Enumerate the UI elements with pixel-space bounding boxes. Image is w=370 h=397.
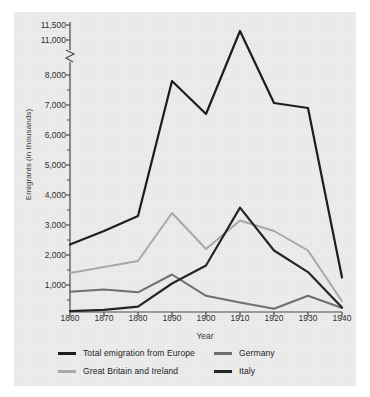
legend-swatch-line bbox=[58, 352, 76, 355]
legend-item[interactable]: Great Britain and Ireland bbox=[58, 366, 214, 376]
legend-label: Italy bbox=[239, 366, 255, 376]
legend-label: Germany bbox=[239, 348, 275, 358]
legend-item[interactable]: Germany bbox=[214, 348, 344, 358]
chart-screenshot: Emigrants (in thousands) 11,500 11,000 8… bbox=[0, 0, 370, 397]
legend-label: Total emigration from Europe bbox=[83, 348, 195, 358]
legend-swatch-line bbox=[214, 370, 232, 373]
chart-legend: Total emigration from Europe Germany Gre… bbox=[58, 348, 350, 384]
legend-swatch-line bbox=[214, 352, 232, 355]
legend-label: Great Britain and Ireland bbox=[83, 366, 178, 376]
line-chart: Emigrants (in thousands) 11,500 11,000 8… bbox=[0, 0, 370, 397]
plot-area bbox=[0, 0, 370, 397]
legend-swatch-line bbox=[58, 370, 76, 373]
legend-item[interactable]: Italy bbox=[214, 366, 344, 376]
legend-item[interactable]: Total emigration from Europe bbox=[58, 348, 214, 358]
